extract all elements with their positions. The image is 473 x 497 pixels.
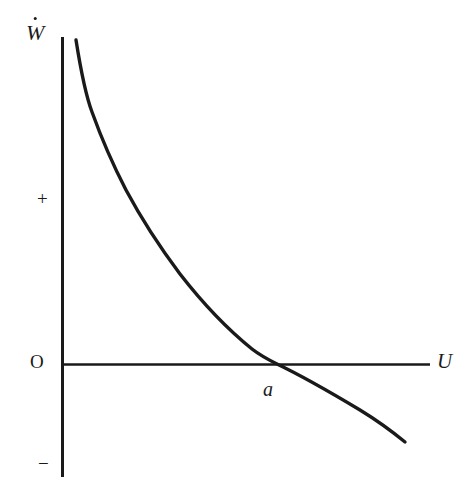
- x-axis-label: U: [437, 351, 452, 372]
- plot-canvas: [0, 0, 473, 497]
- y-axis-label: W: [26, 22, 44, 44]
- origin-label: O: [30, 352, 44, 371]
- crossing-point-label: a: [263, 379, 273, 399]
- y-axis-label-glyph: W: [26, 22, 44, 44]
- plot-background: [0, 0, 473, 497]
- y-axis-negative-tick-label: −: [38, 454, 49, 473]
- figure-container: W U + O − a: [0, 0, 473, 497]
- y-axis-positive-tick-label: +: [37, 189, 48, 208]
- overdot-accent-icon: [34, 17, 37, 20]
